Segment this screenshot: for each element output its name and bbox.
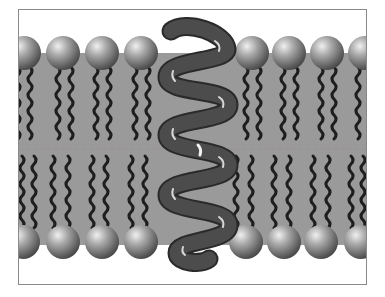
diagram-frame	[18, 9, 367, 285]
membrane-diagram	[19, 10, 366, 284]
